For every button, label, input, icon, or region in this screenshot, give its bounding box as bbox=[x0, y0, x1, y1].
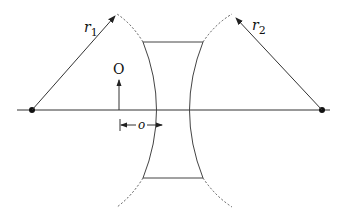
lens-right-surface-extension-bottom bbox=[203, 178, 232, 207]
radius-r1-arrow bbox=[32, 16, 115, 110]
lens-left-surface-extension-bottom bbox=[117, 178, 143, 207]
label-r1: r1 bbox=[84, 19, 98, 39]
label-object-distance: o bbox=[138, 118, 145, 132]
biconcave-lens-diagram: r1 r2 O o bbox=[0, 0, 344, 221]
lens-right-surface-extension-top bbox=[203, 14, 232, 42]
label-r2: r2 bbox=[252, 17, 266, 37]
lens-left-surface-extension-top bbox=[117, 14, 143, 42]
label-object: O bbox=[113, 61, 124, 77]
radius-r2-arrow bbox=[236, 18, 322, 110]
